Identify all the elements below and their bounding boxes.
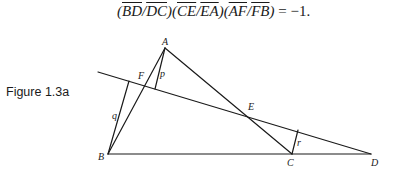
side-ab bbox=[108, 48, 165, 154]
label-b: B bbox=[98, 151, 104, 162]
label-q: q bbox=[112, 110, 117, 121]
label-f: F bbox=[137, 70, 145, 81]
label-a: A bbox=[161, 36, 169, 47]
label-d: D bbox=[370, 157, 379, 168]
label-p: p bbox=[159, 68, 165, 79]
label-e: E bbox=[247, 101, 254, 112]
transversal-line bbox=[98, 72, 371, 154]
label-c: C bbox=[287, 157, 294, 168]
side-ac bbox=[165, 48, 292, 154]
label-r: r bbox=[297, 137, 301, 148]
menelaus-figure: A B C D E F p q r bbox=[0, 0, 394, 172]
